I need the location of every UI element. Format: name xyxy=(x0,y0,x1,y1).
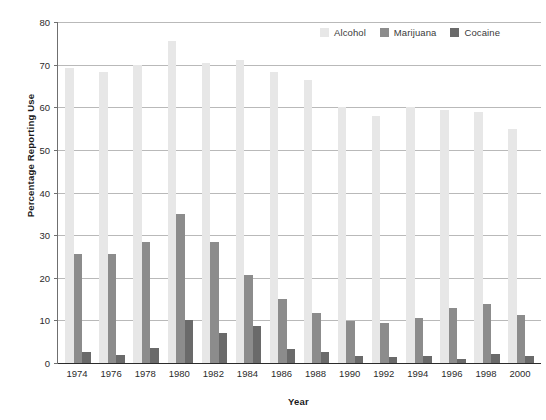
x-tick-label: 1996 xyxy=(435,368,469,379)
bar-marijuana[interactable] xyxy=(210,242,219,363)
bar-alcohol[interactable] xyxy=(372,116,381,363)
bar-marijuana[interactable] xyxy=(415,318,424,363)
bar-cocaine[interactable] xyxy=(355,356,364,363)
bar-alcohol[interactable] xyxy=(270,72,279,363)
bar-cocaine[interactable] xyxy=(457,359,466,363)
x-tick-label: 1980 xyxy=(162,368,196,379)
bar-cocaine[interactable] xyxy=(185,320,194,363)
bar-cocaine[interactable] xyxy=(116,355,125,363)
bar-alcohol[interactable] xyxy=(65,68,74,363)
bar-group xyxy=(231,22,265,363)
bar-group xyxy=(334,22,368,363)
x-axis-tick-labels: 1974197619781980198219841986198819901992… xyxy=(57,368,540,379)
bar-marijuana[interactable] xyxy=(176,214,185,363)
bar-group xyxy=(436,22,470,363)
bar-marijuana[interactable] xyxy=(244,275,253,363)
bar-group xyxy=(368,22,402,363)
bar-marijuana[interactable] xyxy=(380,323,389,363)
x-tick-label: 1988 xyxy=(299,368,333,379)
bar-alcohol[interactable] xyxy=(474,112,483,363)
bar-group xyxy=(300,22,334,363)
x-tick-label: 1984 xyxy=(230,368,264,379)
bar-cocaine[interactable] xyxy=(150,348,159,363)
bar-alcohol[interactable] xyxy=(440,110,449,363)
bar-marijuana[interactable] xyxy=(449,308,458,363)
y-tick-label: 20 xyxy=(26,272,50,283)
bar-alcohol[interactable] xyxy=(236,60,245,363)
x-tick-label: 1994 xyxy=(401,368,435,379)
x-axis-title: Year xyxy=(57,396,540,407)
bar-group xyxy=(61,22,95,363)
bar-alcohol[interactable] xyxy=(202,63,211,363)
bar-marijuana[interactable] xyxy=(142,242,151,363)
x-tick-label: 1976 xyxy=(94,368,128,379)
bar-alcohol[interactable] xyxy=(508,129,517,363)
bar-cocaine[interactable] xyxy=(389,357,398,363)
bar-cocaine[interactable] xyxy=(287,349,296,363)
bar-group xyxy=(265,22,299,363)
x-tick-label: 1982 xyxy=(196,368,230,379)
y-tick-label: 80 xyxy=(26,17,50,28)
bar-group xyxy=(402,22,436,363)
y-tick-label: 10 xyxy=(26,315,50,326)
bar-cocaine[interactable] xyxy=(491,354,500,363)
bar-marijuana[interactable] xyxy=(483,304,492,363)
y-tick-label: 50 xyxy=(26,144,50,155)
bar-alcohol[interactable] xyxy=(133,65,142,363)
bar-chart: AlcoholMarijuanaCocaine Percentage Repor… xyxy=(0,0,546,420)
bar-marijuana[interactable] xyxy=(517,315,526,363)
y-axis-tick-labels: 01020304050607080 xyxy=(26,0,50,420)
x-tick-label: 1998 xyxy=(469,368,503,379)
bar-cocaine[interactable] xyxy=(321,352,330,363)
bar-alcohol[interactable] xyxy=(406,107,415,363)
y-tick-mark xyxy=(54,363,58,364)
bar-cocaine[interactable] xyxy=(82,352,91,363)
bar-cocaine[interactable] xyxy=(525,356,534,363)
bar-cocaine[interactable] xyxy=(253,326,262,364)
bar-alcohol[interactable] xyxy=(304,80,313,363)
y-tick-label: 0 xyxy=(26,358,50,369)
bar-group xyxy=(470,22,504,363)
bar-cocaine[interactable] xyxy=(219,333,228,363)
plot-area xyxy=(57,22,541,364)
bar-groups xyxy=(58,22,541,363)
bar-group xyxy=(129,22,163,363)
bar-cocaine[interactable] xyxy=(423,356,432,363)
bar-group xyxy=(197,22,231,363)
bar-marijuana[interactable] xyxy=(108,254,117,363)
x-tick-label: 2000 xyxy=(503,368,537,379)
x-tick-label: 1990 xyxy=(333,368,367,379)
y-tick-label: 70 xyxy=(26,59,50,70)
bar-alcohol[interactable] xyxy=(338,107,347,363)
bar-group xyxy=(163,22,197,363)
bar-marijuana[interactable] xyxy=(312,313,321,363)
bar-marijuana[interactable] xyxy=(74,254,83,363)
bar-marijuana[interactable] xyxy=(278,299,287,363)
bar-group xyxy=(504,22,538,363)
bar-alcohol[interactable] xyxy=(168,41,177,363)
x-tick-label: 1986 xyxy=(264,368,298,379)
x-tick-label: 1978 xyxy=(128,368,162,379)
x-tick-label: 1974 xyxy=(60,368,94,379)
y-tick-label: 30 xyxy=(26,230,50,241)
y-tick-label: 40 xyxy=(26,187,50,198)
x-tick-label: 1992 xyxy=(367,368,401,379)
bar-alcohol[interactable] xyxy=(99,72,108,363)
bar-marijuana[interactable] xyxy=(346,321,355,363)
y-tick-label: 60 xyxy=(26,102,50,113)
bar-group xyxy=(95,22,129,363)
